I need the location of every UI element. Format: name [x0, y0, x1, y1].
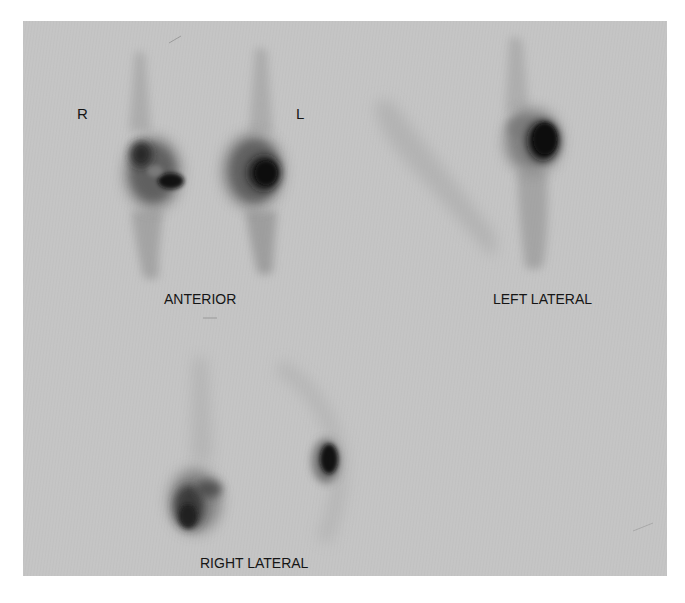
- left-lateral-view-label: LEFT LATERAL: [493, 292, 592, 306]
- bone-scan-image: R L ANTERIOR LEFT LATERAL RIGHT LATERAL: [23, 21, 667, 576]
- right-side-marker: R: [77, 106, 88, 121]
- anterior-view-label: ANTERIOR: [164, 292, 236, 306]
- left-side-marker: L: [296, 106, 304, 121]
- right-lateral-view-label: RIGHT LATERAL: [200, 556, 308, 570]
